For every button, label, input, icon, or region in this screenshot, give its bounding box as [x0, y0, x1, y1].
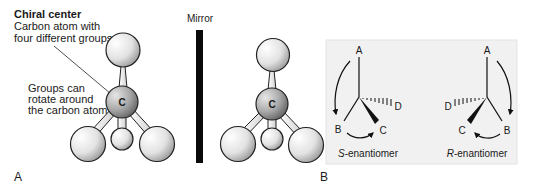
atom-bottom-right — [140, 127, 175, 162]
r-suffix: -enantiomer — [454, 148, 508, 159]
s-enantiomer-caption: S-enantiomer — [338, 148, 399, 159]
atom-bottom-left — [71, 127, 106, 162]
group-b-label: B — [335, 124, 342, 135]
group-a-label: A — [356, 45, 363, 56]
group-c-label: C — [379, 125, 386, 136]
s-suffix: -enantiomer — [345, 148, 399, 159]
group-d-label: D — [444, 101, 451, 112]
chiral-center-desc-line2: four different groups — [14, 32, 113, 44]
atom-bottom-mid — [261, 128, 283, 150]
atom-bottom-left — [221, 127, 256, 162]
panel-b: A B C D S-enantiomer A B — [320, 40, 517, 184]
molecule-right: C — [221, 39, 324, 163]
group-b-label: B — [504, 125, 511, 136]
panel-b-label: B — [320, 170, 328, 184]
panel-b-box — [326, 40, 517, 164]
carbon-symbol: C — [268, 99, 275, 110]
bond-top — [268, 70, 276, 90]
atom-top — [257, 39, 290, 72]
bond-top — [119, 66, 127, 88]
atom-bottom-mid — [111, 128, 133, 150]
atom-top — [106, 33, 140, 67]
mirror-bar — [196, 30, 203, 163]
mirror-label: Mirror — [187, 13, 214, 24]
chiral-center-title: Chiral center — [14, 8, 82, 20]
rotate-note-line3: the carbon atom — [28, 104, 108, 116]
group-d-label: D — [394, 101, 401, 112]
panel-a-label: A — [14, 170, 22, 184]
atom-bottom-right — [289, 128, 324, 163]
r-prefix: R — [447, 148, 454, 159]
group-c-label: C — [458, 125, 465, 136]
chiral-center-desc-line1: Carbon atom with — [14, 20, 100, 32]
carbon-symbol: C — [118, 97, 125, 108]
r-enantiomer-caption: R-enantiomer — [447, 148, 508, 159]
panel-a: Chiral center Carbon atom with four diff… — [14, 8, 324, 184]
chirality-figure: Chiral center Carbon atom with four diff… — [0, 0, 533, 191]
group-a-label: A — [484, 45, 491, 56]
